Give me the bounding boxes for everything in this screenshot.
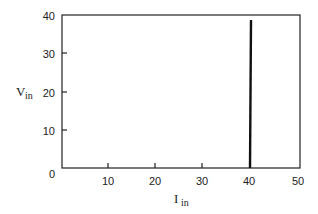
x-ticks [108,163,250,168]
svg-text:I: I [174,191,178,206]
data-line [250,20,251,168]
y-tick-label: 20 [43,87,55,99]
svg-text:in: in [25,90,33,101]
y-tick-label: 40 [43,10,55,22]
x-tick-label: 20 [149,175,161,187]
y-axis-label: V in [16,84,33,101]
y-tick-label: 30 [43,48,55,60]
svg-text:in: in [181,197,189,208]
x-tick-label: 30 [196,175,208,187]
x-axis-label: I in [174,191,189,208]
chart: 10 20 30 40 50 0 10 20 30 40 I in V in [0,0,318,214]
x-tick-label: 50 [292,175,304,187]
y-tick-label: 0 [49,168,55,180]
x-tick-label: 10 [102,175,114,187]
x-tick-label: 40 [243,175,255,187]
y-ticks [62,53,67,130]
plot-frame [62,15,300,168]
y-tick-label: 10 [43,125,55,137]
